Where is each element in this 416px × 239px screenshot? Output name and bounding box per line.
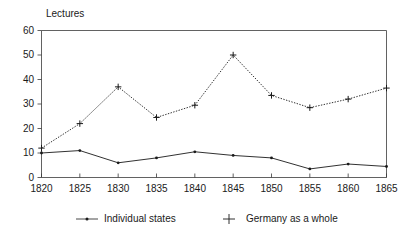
chart-legend: Individual states Germany as a whole	[0, 211, 416, 231]
legend-entry-germany-as-a-whole: Germany as a whole	[218, 211, 338, 227]
data-point-dot-icon	[78, 149, 81, 152]
data-point-plus-icon	[153, 114, 159, 120]
data-point-dot-icon	[117, 161, 120, 164]
x-axis-tick-label: 1845	[213, 184, 253, 194]
legend-marker-plus-icon	[218, 213, 240, 225]
x-axis-tick-label: 1825	[60, 184, 100, 194]
legend-label: Germany as a whole	[246, 213, 338, 225]
lectures-line-chart: Lectures 0102030405060 18201825183018351…	[0, 0, 416, 239]
data-point-dot-icon	[155, 157, 158, 160]
y-axis-tick-label: 0	[10, 173, 34, 183]
data-point-dot-icon	[40, 152, 43, 155]
data-point-plus-icon	[38, 145, 44, 151]
x-axis-tick-label: 1840	[175, 184, 215, 194]
x-axis-tick-label: 1855	[290, 184, 330, 194]
data-point-dot-icon	[385, 165, 388, 168]
series-line-1	[42, 55, 387, 148]
y-axis-tick-label: 40	[10, 75, 34, 85]
plot-frame	[42, 31, 387, 178]
x-axis-tick-label: 1860	[328, 184, 368, 194]
y-axis-tick-label: 60	[10, 26, 34, 36]
legend-label: Individual states	[104, 213, 176, 225]
data-point-dot-icon	[193, 150, 196, 153]
x-axis-tick-label: 1850	[252, 184, 292, 194]
x-axis-tick-label: 1820	[22, 184, 62, 194]
legend-entry-individual-states: Individual states	[76, 211, 176, 227]
y-axis-tick-label: 10	[10, 148, 34, 158]
data-point-dot-icon	[232, 154, 235, 157]
y-axis-tick-label: 30	[10, 99, 34, 109]
series-line-0	[42, 151, 387, 169]
data-point-dot-icon	[308, 168, 311, 171]
data-point-dot-icon	[270, 157, 273, 160]
legend-marker-dot-icon	[76, 213, 98, 225]
x-axis-tick-label: 1830	[98, 184, 138, 194]
data-point-dot-icon	[347, 163, 350, 166]
x-axis-tick-label: 1835	[137, 184, 177, 194]
data-point-plus-icon	[383, 85, 389, 91]
data-point-plus-icon	[345, 96, 351, 102]
x-axis-tick-label: 1865	[367, 184, 407, 194]
y-axis-tick-label: 20	[10, 124, 34, 134]
data-point-plus-icon	[230, 52, 236, 58]
y-axis-tick-label: 50	[10, 50, 34, 60]
y-axis-title: Lectures	[46, 8, 84, 20]
plot-area	[0, 0, 416, 239]
data-point-plus-icon	[307, 104, 313, 110]
